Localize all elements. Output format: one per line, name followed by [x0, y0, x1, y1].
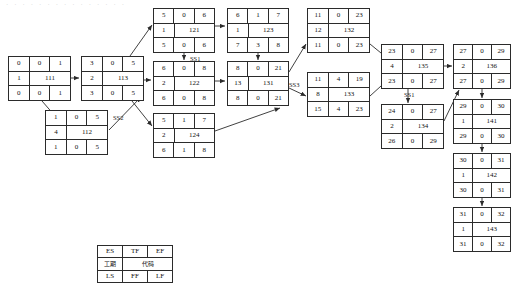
node-ff: 0 [472, 74, 491, 88]
node-ff: 4 [328, 102, 349, 116]
node-tf: 0 [402, 45, 423, 59]
node-row-late: 26 0 29 [382, 133, 443, 148]
network-diagram-canvas: · · · · · · · · · · · · · · · [0, 0, 516, 284]
node-ff: 0 [173, 38, 193, 52]
activity-node[interactable]: 23 0 27 4 135 23 0 27 [381, 44, 444, 89]
node-tf: 0 [472, 154, 491, 168]
node-ff: 0 [247, 91, 267, 105]
node-row-main: 4 112 [46, 125, 107, 140]
node-lf: 8 [194, 91, 214, 105]
node-ls: 5 [154, 38, 173, 52]
node-code: 111 [29, 72, 70, 86]
node-lf: 5 [86, 140, 107, 154]
node-ef: 7 [268, 9, 288, 23]
node-lf: 21 [268, 91, 288, 105]
node-es: 11 [308, 9, 328, 23]
node-tf: 0 [173, 9, 193, 23]
node-duration: 2 [154, 129, 174, 143]
legend-duration: 工期 [98, 258, 122, 269]
node-row-early: 0 0 1 [9, 57, 70, 71]
activity-node[interactable]: 24 0 27 2 134 26 0 29 [381, 104, 444, 149]
activity-node[interactable]: 3 0 5 2 113 3 0 5 [81, 56, 144, 101]
node-row-early: 3 0 5 [82, 57, 143, 71]
activity-node[interactable]: 8 0 21 13 131 8 0 21 [227, 61, 289, 106]
node-row-main: 12 132 [308, 23, 369, 38]
node-code: 122 [174, 77, 214, 91]
node-ef: 29 [491, 45, 510, 59]
activity-node[interactable]: 30 0 31 1 142 30 0 31 [453, 153, 511, 198]
node-row-late: 11 0 23 [308, 37, 369, 52]
node-ls: 6 [154, 143, 173, 157]
node-code: 113 [102, 72, 143, 86]
node-duration: 1 [454, 115, 472, 129]
lag-label-ss1-lower: SS1 [404, 91, 414, 98]
activity-node[interactable]: 6 1 7 1 123 7 3 8 [227, 8, 289, 53]
node-ff: 0 [472, 129, 491, 143]
activity-node[interactable]: 5 1 7 2 124 6 1 8 [153, 113, 215, 158]
node-ef: 5 [122, 57, 143, 71]
activity-node[interactable]: 1 0 5 4 112 1 0 5 [45, 110, 108, 155]
node-duration: 4 [382, 60, 402, 74]
activity-node[interactable]: 0 0 1 1 111 0 0 1 [8, 56, 71, 101]
node-row-main: 4 135 [382, 59, 443, 74]
node-ff: 0 [173, 91, 193, 105]
node-ls: 30 [454, 183, 472, 197]
top-faint-text: · · · · · · · · · · · · · · · [6, 1, 256, 9]
node-ef: 19 [348, 73, 369, 87]
legend-row-early: ES TF EF [98, 246, 172, 257]
node-row-main: 2 113 [82, 71, 143, 86]
node-lf: 29 [491, 74, 510, 88]
node-ef: 30 [491, 100, 510, 114]
activity-node[interactable]: 27 0 29 2 136 27 0 29 [453, 44, 511, 89]
node-es: 5 [154, 9, 173, 23]
node-row-early: 23 0 27 [382, 45, 443, 59]
node-ls: 15 [308, 102, 328, 116]
node-es: 29 [454, 100, 472, 114]
node-duration: 2 [154, 77, 174, 91]
node-code: 132 [328, 24, 369, 38]
node-es: 30 [454, 154, 472, 168]
node-es: 6 [228, 9, 247, 23]
node-ef: 27 [422, 105, 443, 119]
node-row-early: 1 0 5 [46, 111, 107, 125]
node-ls: 11 [308, 38, 328, 52]
node-duration: 2 [82, 72, 102, 86]
node-duration: 2 [454, 60, 472, 74]
node-code: 121 [174, 24, 214, 38]
activity-node[interactable]: 6 0 8 2 122 6 0 8 [153, 61, 215, 106]
node-code: 143 [472, 223, 510, 237]
node-tf: 4 [328, 73, 349, 87]
node-ls: 7 [228, 38, 247, 52]
activity-node[interactable]: 31 0 32 1 143 31 0 32 [453, 207, 511, 252]
node-lf: 5 [122, 86, 143, 100]
legend-tf: TF [122, 246, 147, 257]
node-row-early: 6 0 8 [154, 62, 214, 76]
node-row-main: 1 141 [454, 114, 510, 129]
node-duration: 4 [46, 126, 66, 140]
node-ff: 0 [472, 183, 491, 197]
node-row-main: 8 133 [308, 87, 369, 102]
node-lf: 23 [348, 38, 369, 52]
node-code: 142 [472, 169, 510, 183]
node-tf: 1 [173, 114, 193, 128]
legend: ES TF EF 工期 代码 LS FF LF [97, 245, 173, 283]
node-row-early: 5 1 7 [154, 114, 214, 128]
activity-node[interactable]: 11 4 19 8 133 15 4 23 [307, 72, 370, 117]
node-code: 131 [248, 77, 288, 91]
node-row-late: 0 0 1 [9, 85, 70, 100]
node-row-late: 1 0 5 [46, 139, 107, 154]
node-ef: 1 [49, 57, 70, 71]
node-ls: 23 [382, 74, 402, 88]
node-ef: 23 [348, 9, 369, 23]
node-ff: 0 [402, 134, 423, 148]
node-row-late: 3 0 5 [82, 85, 143, 100]
lag-label-ss1-upper: SS1 [190, 55, 200, 62]
legend-ls: LS [98, 271, 122, 282]
node-row-main: 1 123 [228, 23, 288, 38]
activity-node[interactable]: 11 0 23 12 132 11 0 23 [307, 8, 370, 53]
activity-node[interactable]: 29 0 30 1 141 29 0 30 [453, 99, 511, 144]
node-es: 23 [382, 45, 402, 59]
activity-node[interactable]: 5 0 6 1 121 5 0 6 [153, 8, 215, 53]
node-row-main: 1 142 [454, 168, 510, 183]
node-tf: 0 [472, 100, 491, 114]
